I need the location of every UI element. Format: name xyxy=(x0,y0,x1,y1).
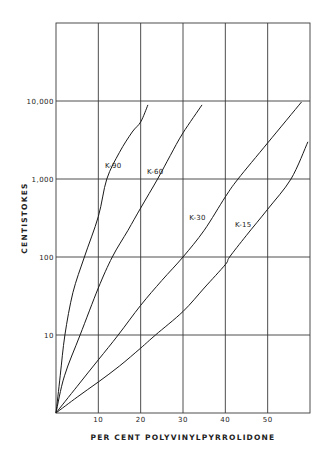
series-label-k-15: K-15 xyxy=(235,221,252,229)
x-tick-label: 20 xyxy=(136,416,146,424)
x-tick-label: 30 xyxy=(178,416,188,424)
y-tick-label: 10 xyxy=(44,332,54,340)
y-tick-label: 100 xyxy=(39,254,54,262)
x-tick-label: 40 xyxy=(220,416,230,424)
y-axis-title: CENTISTOKES xyxy=(20,182,29,253)
x-tick-label: 10 xyxy=(93,416,103,424)
series-label-k-30: K-30 xyxy=(189,214,206,222)
x-axis-ticks: 1020304050 xyxy=(93,416,272,424)
series-curves xyxy=(56,102,308,413)
x-axis-title: PER CENT POLYVINYLPYRROLIDONE xyxy=(91,433,276,442)
series-label-k-60: K-60 xyxy=(147,168,164,176)
y-tick-label: 1,000 xyxy=(31,176,54,184)
plot-grid xyxy=(56,23,310,413)
x-tick-label: 50 xyxy=(263,416,273,424)
series-curve-k-60 xyxy=(56,105,202,413)
viscosity-chart: K-90K-60K-30K-15 1020304050 101001,00010… xyxy=(0,0,325,458)
y-tick-label: 10,000 xyxy=(27,98,55,106)
series-labels: K-90K-60K-30K-15 xyxy=(105,162,251,230)
series-curve-k-15 xyxy=(56,142,308,413)
series-curve-k-90 xyxy=(56,105,148,413)
series-curve-k-30 xyxy=(56,102,302,413)
y-axis-ticks: 101001,00010,000 xyxy=(27,98,55,340)
series-label-k-90: K-90 xyxy=(105,162,122,170)
